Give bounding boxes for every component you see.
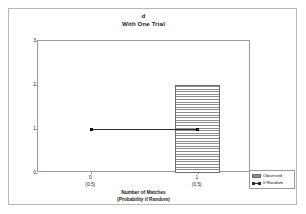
plot-inner: 0123 — [38, 41, 249, 171]
x-axis-tick-label: 1(0.5) — [167, 175, 227, 189]
plot-area: 0123 — [37, 40, 250, 172]
x-axis-tick-category: 1 — [167, 175, 227, 182]
x-axis-title-line2: (Probability if Random) — [37, 197, 250, 204]
y-axis-tick-label: 3 — [26, 39, 36, 44]
y-axis-tick-label: 2 — [26, 83, 36, 88]
y-axis-tick-mark — [36, 173, 39, 174]
x-axis-tick-label: 0(0.5) — [60, 175, 120, 189]
legend-item-if-random: If Random — [252, 180, 292, 187]
if-random-line — [91, 129, 198, 130]
x-axis-title-line1: Number of Matches — [37, 190, 250, 197]
chart-figure: d With One Trial Number of Principals 01… — [0, 0, 306, 214]
x-axis-tick-probability: (0.5) — [167, 182, 227, 189]
chart-subtitle: With One Trial — [37, 20, 250, 27]
y-axis-tick-mark — [36, 129, 39, 130]
legend-label-observed: Observed — [263, 174, 282, 178]
x-axis-tick-mark — [91, 171, 92, 174]
y-axis-tick-label: 0 — [26, 171, 36, 176]
x-axis-tick-category: 0 — [60, 175, 120, 182]
legend-swatch-line-icon — [252, 181, 261, 185]
y-axis-tick-mark — [36, 41, 39, 42]
chart-legend: Observed If Random — [249, 170, 295, 189]
chart-panel-label: d — [37, 12, 250, 19]
y-axis-tick-label: 1 — [26, 127, 36, 132]
if-random-marker — [90, 128, 93, 131]
chart-title-block: d With One Trial — [37, 12, 250, 27]
legend-swatch-bar-icon — [252, 174, 261, 178]
legend-label-if-random: If Random — [263, 181, 283, 185]
legend-item-observed: Observed — [252, 173, 292, 180]
if-random-marker — [196, 128, 199, 131]
x-axis-tick-probability: (0.5) — [60, 182, 120, 189]
y-axis-tick-mark — [36, 85, 39, 86]
x-axis-title: Number of Matches (Probability if Random… — [37, 190, 250, 204]
